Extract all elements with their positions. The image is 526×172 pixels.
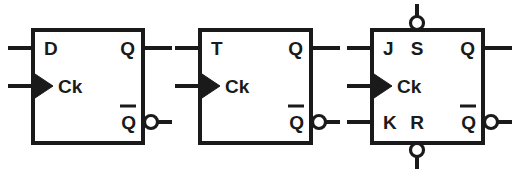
jk-set-inversion-bubble-icon xyxy=(411,17,424,30)
jk-qnot-output-label: Q xyxy=(461,112,476,133)
d-clock-label: Ck xyxy=(58,76,83,97)
d-flip-flop-symbol: D Ck Q Q xyxy=(8,30,172,143)
d-q-output-label: Q xyxy=(120,38,135,59)
jk-set-input-label: S xyxy=(411,38,424,59)
jk-clock-label: Ck xyxy=(397,76,422,97)
t-qnot-inversion-bubble-icon xyxy=(313,116,326,129)
jk-clock-triangle-icon xyxy=(374,74,392,98)
d-input-label: D xyxy=(44,38,58,59)
jk-q-output-label: Q xyxy=(460,38,475,59)
d-qnot-inversion-bubble-icon xyxy=(145,116,158,129)
jk-reset-input-label: R xyxy=(410,112,424,133)
t-flip-flop-symbol: T Ck Q Q xyxy=(175,30,340,143)
t-clock-triangle-icon xyxy=(202,74,220,98)
t-qnot-output-label: Q xyxy=(289,112,304,133)
jk-flip-flop-symbol: J Ck K S R Q Q xyxy=(347,4,512,169)
jk-k-input-label: K xyxy=(383,112,397,133)
t-clock-label: Ck xyxy=(225,76,250,97)
t-input-label: T xyxy=(211,38,223,59)
d-clock-triangle-icon xyxy=(35,74,53,98)
flip-flop-diagram: D Ck Q Q T Ck Q xyxy=(0,0,526,172)
jk-qnot-inversion-bubble-icon xyxy=(485,116,498,129)
jk-reset-inversion-bubble-icon xyxy=(411,144,424,157)
t-q-output-label: Q xyxy=(288,38,303,59)
d-qnot-output-label: Q xyxy=(121,112,136,133)
jk-j-input-label: J xyxy=(383,38,394,59)
